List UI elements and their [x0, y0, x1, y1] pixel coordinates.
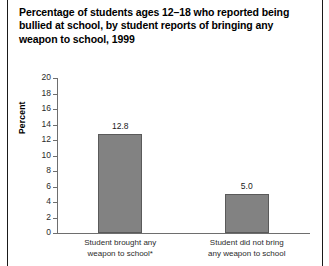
- y-tick-label: 10: [42, 150, 51, 160]
- bar-value-label: 12.8: [112, 121, 129, 131]
- category-label: Student brought any weapon to school*: [57, 238, 184, 259]
- y-tick-label: 8: [46, 165, 51, 175]
- y-tick-mark: [53, 109, 57, 110]
- bar: [225, 194, 269, 233]
- y-tick-label: 16: [42, 103, 51, 113]
- y-tick-label: 4: [46, 196, 51, 206]
- y-tick-label: 20: [42, 72, 51, 82]
- y-tick-label: 6: [46, 181, 51, 191]
- y-tick-mark: [53, 187, 57, 188]
- y-tick-label: 12: [42, 134, 51, 144]
- y-tick-mark: [53, 125, 57, 126]
- figure-right-rule: [322, 0, 323, 266]
- y-tick-mark: [53, 218, 57, 219]
- y-axis-label: Percent: [17, 101, 27, 134]
- bar: [98, 134, 142, 233]
- y-tick-mark: [53, 94, 57, 95]
- y-tick-label: 14: [42, 119, 51, 129]
- y-tick-mark: [53, 140, 57, 141]
- y-tick-mark: [53, 202, 57, 203]
- y-axis-line: [57, 78, 58, 233]
- y-tick-mark: [53, 171, 57, 172]
- y-tick-mark: [53, 233, 57, 234]
- plot-area: 02468101214161820 12.8Student brought an…: [57, 78, 310, 233]
- y-tick-mark: [53, 156, 57, 157]
- category-label: Student did not bring any weapon to scho…: [184, 238, 311, 259]
- bar-value-label: 5.0: [241, 181, 253, 191]
- figure-left-rule: [7, 0, 8, 266]
- x-axis-line: [57, 233, 310, 234]
- y-tick-mark: [53, 78, 57, 79]
- y-tick-label: 18: [42, 88, 51, 98]
- chart-title: Percentage of students ages 12–18 who re…: [19, 6, 311, 46]
- bar-chart-figure: Percentage of students ages 12–18 who re…: [0, 0, 329, 266]
- y-tick-label: 0: [46, 227, 51, 237]
- y-tick-label: 2: [46, 212, 51, 222]
